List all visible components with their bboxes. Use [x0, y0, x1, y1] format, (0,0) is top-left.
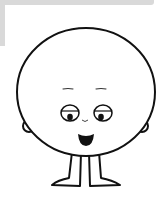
legs — [52, 152, 120, 186]
cartoon-character — [0, 0, 166, 213]
right-leg — [89, 152, 120, 186]
left-eye — [61, 105, 79, 121]
left-eyebrow — [63, 89, 73, 90]
left-leg — [52, 152, 81, 186]
right-eye — [94, 105, 112, 121]
right-eyebrow — [96, 89, 106, 90]
